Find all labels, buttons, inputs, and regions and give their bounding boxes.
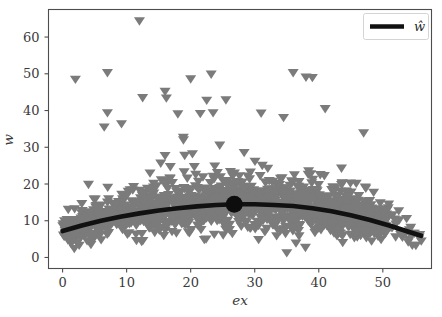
y-tick-label: 30 — [23, 140, 40, 155]
x-tick-label: 20 — [182, 275, 199, 290]
x-tick-label: 10 — [118, 275, 135, 290]
scatter-plot-canvas: 01020304050 0102030405060 ex w ŵ — [0, 0, 442, 317]
y-tick-label: 0 — [31, 250, 39, 265]
chart-figure: 01020304050 0102030405060 ex w ŵ — [0, 0, 442, 317]
y-tick-label: 20 — [23, 177, 40, 192]
y-tick-label: 60 — [23, 30, 40, 45]
chart-legend[interactable]: ŵ — [364, 14, 429, 40]
y-tick-label: 10 — [23, 213, 40, 228]
legend-label-w-hat: ŵ — [414, 19, 425, 34]
x-tick-label: 30 — [246, 275, 263, 290]
figure-background — [0, 0, 442, 317]
x-axis-title: ex — [232, 292, 248, 308]
highlighted-point-layer — [226, 196, 243, 213]
x-tick-label: 40 — [311, 275, 328, 290]
highlighted-data-point — [226, 196, 243, 213]
y-axis-title: w — [0, 134, 16, 146]
y-tick-label: 40 — [23, 103, 40, 118]
x-tick-label: 50 — [375, 275, 392, 290]
y-tick-label: 50 — [23, 66, 40, 81]
x-tick-label: 0 — [58, 275, 66, 290]
